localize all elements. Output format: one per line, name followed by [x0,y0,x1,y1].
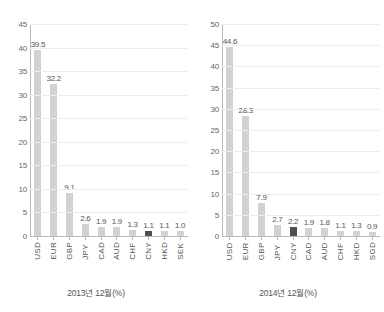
x-tick-slot [317,237,333,240]
y-tick-label: 5 [215,210,219,219]
x-axis-label: CAD [97,242,106,260]
bar [305,228,312,236]
bar-value-label: 1.9 [96,217,106,226]
gridline [222,172,380,173]
x-label-slot: CAD [93,242,109,260]
x-label-slot: GBP [254,242,270,260]
x-tick-slot [222,237,238,240]
x-axis-label: EUR [49,242,58,260]
bar-group: 1.9 [109,24,125,236]
gridline [222,66,380,67]
x-axis-label: CAD [304,242,313,260]
x-axis-label: CHF [128,242,137,260]
y-tick-label: 35 [211,83,220,92]
x-axis-label: GBP [65,242,74,260]
x-tick-slot [125,237,141,240]
tick-mark [69,237,70,240]
x-tick-slot [238,237,254,240]
bar [353,231,360,237]
bar-group: 32.2 [46,24,62,236]
x-axis-label: USD [225,242,234,260]
plot-area-2013: 051015202530354045 39.532.29.12.61.91.91… [0,0,192,272]
x-label-slot: USD [30,242,46,260]
gridline [222,194,380,195]
tick-mark [116,237,117,240]
x-label-slot: CNY [141,242,157,260]
y-tick-label: 10 [211,189,220,198]
gridline [222,88,380,89]
tick-mark [245,237,246,240]
bar-value-label: 2.6 [80,214,90,223]
x-axis-label: CHF [336,242,345,260]
x-tick-slot [62,237,78,240]
bar-value-label: 0.9 [367,222,377,231]
bar-series-2013: 39.532.29.12.61.91.91.31.11.11.0 [30,24,188,236]
tick-mark [261,237,262,240]
tick-mark [356,237,357,240]
tick-mark [101,237,102,240]
x-tick-slot [333,237,349,240]
bar-value-label: 2.2 [288,217,298,226]
bar-group: 9.1 [62,24,78,236]
bar-highlighted [290,227,297,236]
x-axis-label: USD [33,242,42,260]
bar-value-label: 9.1 [64,183,74,192]
y-tick-label: 15 [211,168,220,177]
bar [274,225,281,236]
x-tick-slot [172,237,188,240]
bar-value-label: 32.2 [47,74,61,83]
x-label-slot: CHF [125,242,141,260]
x-tick-slot [301,237,317,240]
bar-value-label: 1.3 [128,220,138,229]
x-axis-label: CNY [144,242,153,260]
bar-group: 2.6 [77,24,93,236]
bar [113,227,120,236]
chart-panel-2013: 051015202530354045 39.532.29.12.61.91.91… [0,0,192,312]
y-tick-label: 30 [211,104,220,113]
y-tick-label: 25 [19,114,28,123]
tick-mark [53,237,54,240]
gridline [30,95,188,96]
gridline [30,24,188,25]
x-tick-slot [30,237,46,240]
bar-value-label: 1.9 [112,217,122,226]
x-axis-label: SGD [368,242,377,260]
x-tick-marks-2013 [30,237,188,240]
bar-value-label: 1.8 [320,218,330,227]
y-axis-2014: 05101520253035404550 [192,0,222,272]
tick-mark [372,237,373,240]
x-tick-slot [109,237,125,240]
tick-mark [132,237,133,240]
bar-value-label: 1.1 [159,221,169,230]
gridline [222,151,380,152]
gridline [30,142,188,143]
gridline [222,24,380,25]
x-label-slot: CNY [285,242,301,260]
tick-mark [277,237,278,240]
bar [177,231,184,236]
tick-mark [85,237,86,240]
x-axis-label: GBP [257,242,266,260]
bar-group: 39.5 [30,24,46,236]
bar-value-label: 1.9 [304,218,314,227]
tick-mark [229,237,230,240]
bar-group: 1.0 [172,24,188,236]
bar-value-label: 1.1 [143,221,153,230]
y-tick-label: 35 [19,67,28,76]
plot-canvas-2013: 39.532.29.12.61.91.91.31.11.11.0 USDEURG… [30,0,188,272]
chart-panel-2014: 05101520253035404550 44.628.37.92.72.21.… [192,0,384,312]
bar [161,231,168,236]
bar-value-label: 2.7 [272,215,282,224]
x-tick-slot [348,237,364,240]
gridline [222,215,380,216]
gridline [222,109,380,110]
x-axis-labels-2014: USDEURGBPJPYCNYCADAUDCHFHKDSGD [222,242,380,260]
x-label-slot: EUR [46,242,62,260]
y-tick-label: 10 [19,184,28,193]
gridline [30,189,188,190]
bar-highlighted [145,231,152,236]
x-axis-label: CNY [289,242,298,260]
x-tick-marks-2014 [222,237,380,240]
x-label-slot: HKD [156,242,172,260]
y-tick-label: 50 [211,20,220,29]
